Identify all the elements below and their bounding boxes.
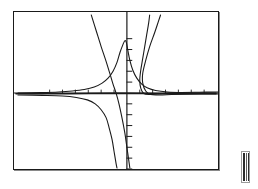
plot-frame: [13, 11, 219, 170]
curve-right-branch-outer: [142, 15, 218, 95]
screenshot-root: [0, 0, 258, 189]
curve-peaked-bell-curve: [18, 41, 216, 93]
function-plot: [14, 12, 218, 169]
curve-lower-branch-left: [18, 95, 117, 168]
scroll-bar-stripe: [248, 153, 250, 181]
curve-steep-line-upper-left: [91, 15, 130, 168]
curve-right-branch-inner: [140, 15, 218, 95]
vertical-scroll-bar[interactable]: [241, 151, 250, 183]
